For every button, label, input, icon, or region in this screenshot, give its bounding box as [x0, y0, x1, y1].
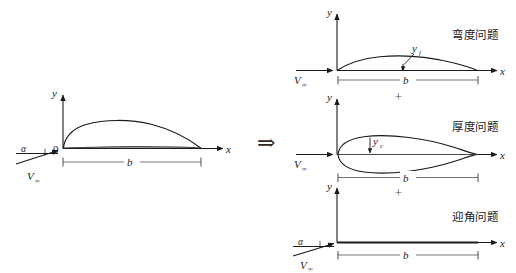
implies-arrow-icon: ⇒ — [257, 130, 275, 155]
figure-root: y x 0 α V ∞ b ⇒ — [0, 0, 516, 273]
freestream-subscript-aoa: ∞ — [308, 265, 313, 272]
freestream-subscript-thickness: ∞ — [302, 165, 307, 172]
freestream-label-camber: V — [294, 74, 302, 86]
freestream-subscript-camber: ∞ — [302, 81, 307, 88]
freestream-label-original: V — [27, 170, 35, 182]
y-axis-label-thickness: y — [326, 91, 332, 103]
panel-thickness-problem: y x V ∞ y c b 厚度问题 — [294, 91, 505, 184]
panel-original-airfoil: y x 0 α V ∞ b — [16, 87, 231, 184]
caption-angle-of-attack-problem: 迎角问题 — [452, 210, 499, 224]
chord-label-aoa: b — [403, 249, 409, 261]
camber-line-camber — [338, 56, 478, 70]
x-axis-label-aoa: x — [499, 237, 505, 249]
caption-camber-problem: 弯度问题 — [452, 28, 499, 42]
y-axis-label-camber: y — [326, 6, 332, 18]
plus-operator-1: + — [395, 90, 402, 104]
chord-label-thickness: b — [403, 172, 409, 184]
x-axis-label-original: x — [225, 143, 231, 155]
y-axis-label-original: y — [51, 87, 57, 99]
thickness-ordinate-label: y — [372, 135, 378, 147]
alpha-label-original: α — [21, 144, 27, 154]
plus-operator-2: + — [395, 186, 402, 200]
freestream-label-aoa: V — [300, 259, 308, 271]
camber-ordinate-label: y — [411, 42, 417, 54]
chord-label-original: b — [127, 156, 133, 168]
airfoil-decomposition-diagram: y x 0 α V ∞ b ⇒ — [0, 0, 516, 273]
freestream-subscript-original: ∞ — [35, 177, 40, 184]
alpha-label-aoa: α — [298, 237, 304, 247]
airfoil-outline-original — [64, 120, 202, 148]
x-axis-label-thickness: x — [499, 149, 505, 161]
caption-thickness-problem: 厚度问题 — [452, 120, 499, 134]
chord-label-camber: b — [403, 74, 409, 86]
thickness-ordinate-subscript: c — [380, 142, 383, 149]
x-axis-label-camber: x — [499, 65, 505, 77]
freestream-label-thickness: V — [294, 158, 302, 170]
panel-camber-problem: y x V ∞ y f b 弯度问题 — [294, 6, 505, 88]
y-axis-label-aoa: y — [326, 180, 332, 192]
camber-ordinate-subscript: f — [419, 49, 422, 56]
